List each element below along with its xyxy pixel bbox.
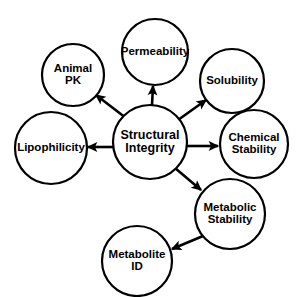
node-chemical-stability-label-line2: Stability (232, 143, 277, 155)
node-solubility-label-line1: Solubility (206, 74, 258, 86)
node-animal-pk[interactable]: Animal PK (42, 44, 104, 106)
node-permeability-label-line1: Permeability (121, 45, 190, 57)
edge-metabolic-stability-to-metabolite-id (172, 236, 203, 249)
nodes-layer: Permeability Animal PK Solubility Lipoph… (15, 19, 288, 296)
node-chemical-stability[interactable]: Chemical Stability (220, 110, 288, 178)
node-animal-pk-label-line1: Animal (54, 62, 92, 74)
node-lipophilicity[interactable]: Lipophilicity (15, 112, 87, 184)
node-metabolic-stability-label-line1: Metabolic (203, 201, 257, 213)
node-structural-integrity-label-line1: Structural (120, 128, 179, 142)
edge-center-to-solubility (178, 100, 206, 120)
edge-center-to-metabolic-stability (175, 168, 201, 190)
edge-center-to-animal-pk (96, 95, 126, 118)
node-metabolic-stability[interactable]: Metabolic Stability (195, 179, 265, 249)
node-metabolite-id-label-line1: Metabolite (109, 248, 166, 260)
node-metabolite-id[interactable]: Metabolite ID (102, 226, 172, 296)
edge-center-to-permeability (152, 86, 153, 105)
node-graph-svg: Permeability Animal PK Solubility Lipoph… (0, 0, 297, 297)
node-lipophilicity-label-line1: Lipophilicity (17, 141, 85, 153)
node-chemical-stability-label-line1: Chemical (228, 131, 279, 143)
node-metabolic-stability-label-line2: Stability (208, 213, 253, 225)
node-solubility[interactable]: Solubility (200, 49, 264, 113)
node-structural-integrity-label-line2: Integrity (125, 141, 174, 155)
node-metabolite-id-label-line2: ID (131, 260, 143, 272)
diagram-canvas: Permeability Animal PK Solubility Lipoph… (0, 0, 297, 297)
node-permeability[interactable]: Permeability (121, 19, 190, 85)
node-animal-pk-label-line2: PK (65, 74, 82, 86)
node-structural-integrity[interactable]: Structural Integrity (113, 105, 187, 179)
